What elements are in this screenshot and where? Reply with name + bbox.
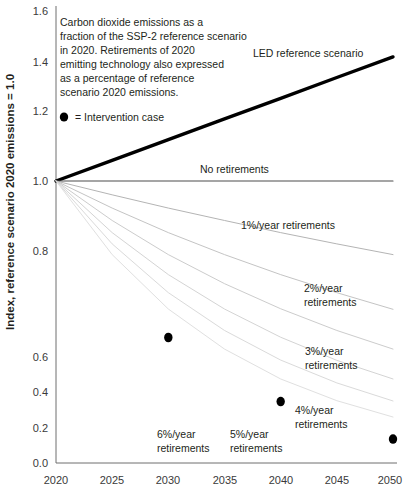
x-tick-6: 2050 (378, 474, 402, 486)
y-axis-tick-labels: 0.0 0.2 0.4 0.6 0.8 1.0 1.2 1.4 1.6 (33, 5, 48, 469)
intervention-point-2050 (389, 434, 397, 444)
note-line-5: scenario 2020 emissions. (60, 86, 178, 98)
label-5pct-retirements-line1: 5%/year (230, 428, 269, 440)
x-tick-3: 2035 (213, 474, 237, 486)
series-line-3-year-retirements (56, 181, 393, 349)
label-1pct-retirements: 1%/year retirements (241, 219, 335, 231)
note-line-0: Carbon dioxide emissions as a (60, 16, 203, 28)
x-tick-1: 2025 (100, 474, 124, 486)
x-axis-tick-labels: 2020 2025 2030 2035 2040 2045 2050 (44, 474, 402, 486)
legend-label: = Intervention case (75, 111, 164, 123)
label-4pct-retirements-line2: retirements (295, 418, 348, 430)
note-line-4: as a percentage of reference (60, 72, 194, 84)
description-note: Carbon dioxide emissions as a fraction o… (60, 16, 247, 98)
y-tick-7: 1.4 (33, 56, 48, 68)
y-tick-6: 1.2 (33, 105, 48, 117)
label-led-reference-scenario: LED reference scenario (253, 47, 363, 59)
chart-container: 0.0 0.2 0.4 0.6 0.8 1.0 1.2 1.4 1.6 2020… (0, 0, 408, 493)
x-tick-2: 2030 (156, 474, 180, 486)
y-tick-5: 1.0 (33, 175, 48, 187)
note-line-1: fraction of the SSP-2 reference scenario (60, 30, 247, 42)
label-2pct-retirements-line1: 2%/year (304, 282, 343, 294)
y-tick-3: 0.6 (33, 351, 48, 363)
intervention-legend: = Intervention case (60, 111, 164, 123)
label-2pct-retirements-line2: retirements (304, 296, 357, 308)
label-5pct-retirements-line2: retirements (230, 442, 283, 454)
note-line-3: emitting technology also expressed (60, 58, 224, 70)
x-tick-0: 2020 (44, 474, 68, 486)
intervention-points-layer (164, 333, 397, 444)
label-no-retirements: No retirements (200, 163, 269, 175)
label-6pct-retirements-line1: 6%/year (157, 428, 196, 440)
intervention-point-2030 (164, 333, 172, 343)
emissions-index-line-chart: 0.0 0.2 0.4 0.6 0.8 1.0 1.2 1.4 1.6 2020… (0, 0, 408, 493)
note-line-2: in 2020. Retirements of 2020 (60, 44, 195, 56)
y-tick-8: 1.6 (33, 5, 48, 17)
label-4pct-retirements-line1: 4%/year (295, 404, 334, 416)
y-tick-4: 0.8 (33, 245, 48, 257)
y-axis-title: Index, reference scenario 2020 emissions… (4, 74, 16, 330)
y-tick-1: 0.2 (33, 422, 48, 434)
label-3pct-retirements-line1: 3%/year (305, 345, 344, 357)
y-tick-2: 0.4 (33, 386, 48, 398)
label-3pct-retirements-line2: retirements (305, 359, 358, 371)
intervention-dot-icon (60, 112, 68, 121)
label-6pct-retirements-line2: retirements (157, 442, 210, 454)
x-tick-4: 2040 (269, 474, 293, 486)
intervention-point-2040 (276, 397, 284, 407)
series-line-1-year-retirements (56, 181, 393, 255)
x-tick-5: 2045 (325, 474, 349, 486)
y-tick-0: 0.0 (33, 457, 48, 469)
